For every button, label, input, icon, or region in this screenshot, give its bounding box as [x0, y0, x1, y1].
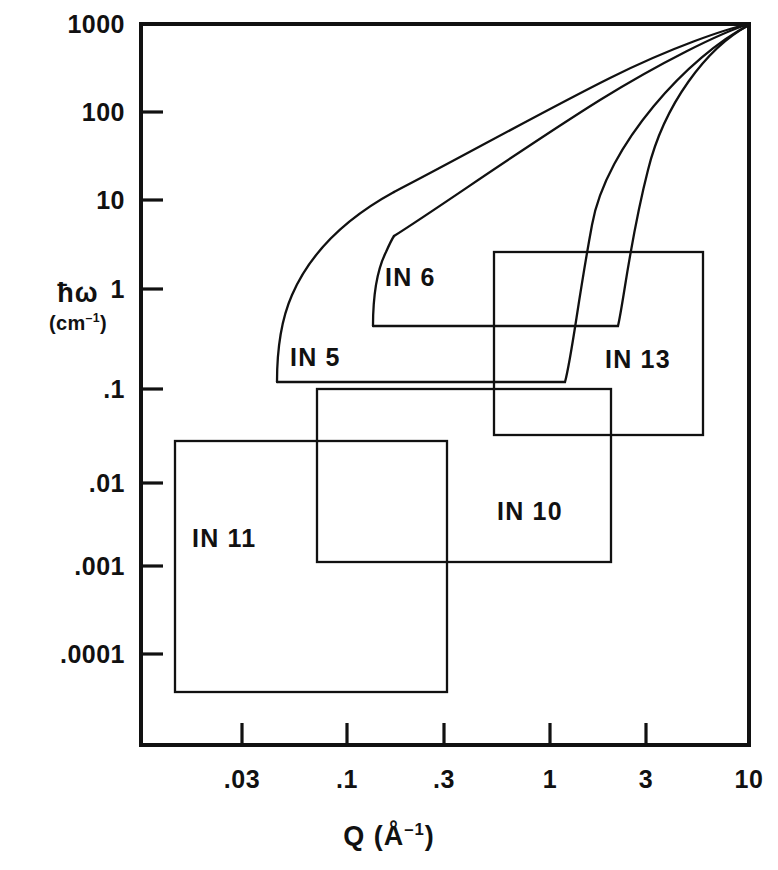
xtick-label-0p1: .1 [336, 765, 358, 794]
region-label-in13: IN 13 [605, 345, 671, 374]
region-in13 [494, 252, 703, 435]
region-in6-upper-boundary [394, 24, 749, 236]
ytick-label-100: 100 [5, 98, 125, 127]
figure-root: 1000 100 10 1 .1 .01 .001 .0001 .03 .1 .… [0, 0, 778, 870]
region-in5-upper-boundary [394, 24, 749, 192]
axis-frame [141, 24, 749, 745]
region-label-in10: IN 10 [497, 497, 563, 526]
y-unit-close: ) [100, 312, 107, 334]
x-title-exponent: –1 [404, 820, 425, 839]
region-label-in11: IN 11 [192, 524, 256, 553]
x-axis-ticks [242, 723, 646, 745]
xtick-label-10: 10 [735, 765, 764, 794]
ytick-label-0p1: .1 [5, 375, 125, 404]
y-unit-exponent: –1 [86, 311, 100, 325]
region-in5 [277, 25, 749, 382]
ytick-label-0p0001: .0001 [5, 640, 125, 669]
y-axis-title-unit: (cm–1) [18, 311, 138, 335]
xtick-label-0p03: .03 [224, 765, 260, 794]
y-axis-title: ħω (cm–1) [18, 278, 138, 335]
plot-canvas [0, 0, 778, 870]
y-axis-title-symbol: ħω [18, 278, 138, 309]
x-title-close: ) [425, 821, 435, 851]
ytick-label-0p01: .01 [5, 469, 125, 498]
xtick-label-0p3: .3 [433, 765, 455, 794]
y-unit-open: (cm [49, 312, 85, 334]
ytick-label-1000: 1000 [5, 10, 125, 39]
region-in10 [317, 389, 611, 562]
x-axis-title: Q (Å–1) [0, 820, 778, 852]
region-label-in6: IN 6 [385, 263, 436, 292]
y-axis-ticks [141, 112, 163, 654]
xtick-label-3: 3 [639, 765, 653, 794]
region-in11 [175, 441, 447, 692]
ytick-label-10: 10 [5, 186, 125, 215]
xtick-label-1: 1 [543, 765, 557, 794]
ytick-label-0p001: .001 [5, 552, 125, 581]
region-label-in5: IN 5 [290, 343, 341, 372]
x-title-main: Q (Å [343, 821, 404, 851]
